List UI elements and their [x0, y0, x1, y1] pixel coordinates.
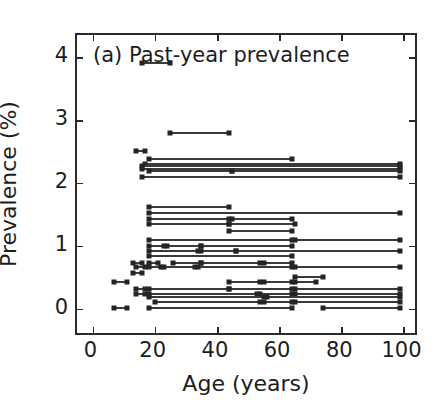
range-segment: [149, 212, 401, 214]
range-segment: [149, 239, 292, 241]
data-point-marker: [171, 261, 176, 266]
data-point-marker: [130, 271, 135, 276]
data-point-marker: [292, 265, 297, 270]
range-segment: [264, 301, 292, 303]
range-segment: [295, 239, 401, 241]
y-tick-label: 0: [55, 296, 68, 317]
range-segment: [232, 218, 291, 220]
data-point-marker: [146, 211, 151, 216]
data-point-marker: [227, 221, 232, 226]
range-segment: [149, 250, 199, 252]
x-tick-label: 0: [84, 340, 97, 361]
data-point-marker: [199, 248, 204, 253]
data-point-marker: [146, 238, 151, 243]
data-point-marker: [140, 167, 145, 172]
range-segment: [149, 296, 264, 298]
data-point-marker: [398, 306, 403, 311]
data-point-marker: [398, 265, 403, 270]
range-segment: [295, 293, 401, 295]
range-segment: [149, 158, 292, 160]
data-point-marker: [112, 279, 117, 284]
y-axis-title: Prevalence (%): [0, 101, 21, 267]
range-segment: [323, 307, 401, 309]
data-point-marker: [261, 261, 266, 266]
data-point-marker: [320, 275, 325, 280]
range-segment: [264, 281, 292, 283]
data-point-marker: [124, 279, 129, 284]
data-point-marker: [146, 221, 151, 226]
x-tick-label: 100: [381, 340, 421, 361]
data-point-marker: [292, 279, 297, 284]
y-tick-label: 2: [55, 170, 68, 191]
data-point-marker: [140, 271, 145, 276]
data-point-marker: [168, 61, 173, 66]
range-segment: [149, 255, 292, 257]
data-point-marker: [289, 228, 294, 233]
range-segment: [201, 250, 235, 252]
data-point-marker: [134, 149, 139, 154]
data-point-marker: [227, 131, 232, 136]
data-point-marker: [146, 204, 151, 209]
data-point-marker: [292, 221, 297, 226]
range-segment: [170, 132, 229, 134]
range-segment: [229, 288, 291, 290]
data-point-marker: [314, 279, 319, 284]
data-point-marker: [264, 294, 269, 299]
data-point-marker: [227, 228, 232, 233]
data-point-marker: [289, 243, 294, 248]
range-segment: [232, 170, 400, 172]
data-point-marker: [398, 248, 403, 253]
plot-area: (a) Past-year prevalence: [75, 33, 417, 335]
data-point-marker: [196, 265, 201, 270]
range-segment: [229, 230, 291, 232]
range-segment: [149, 206, 230, 208]
range-segment: [142, 62, 170, 64]
data-point-marker: [398, 300, 403, 305]
data-point-marker: [134, 265, 139, 270]
data-point-marker: [143, 149, 148, 154]
range-segment: [155, 301, 261, 303]
range-segment: [264, 262, 292, 264]
range-segment: [295, 266, 401, 268]
y-tick-label: 4: [55, 45, 68, 66]
data-series-layer: [77, 35, 415, 333]
range-segment: [149, 223, 230, 225]
data-point-marker: [398, 174, 403, 179]
range-segment: [236, 250, 401, 252]
data-point-marker: [233, 248, 238, 253]
range-segment: [295, 276, 323, 278]
range-segment: [164, 266, 195, 268]
range-segment: [201, 262, 260, 264]
data-point-marker: [134, 291, 139, 296]
data-point-marker: [124, 306, 129, 311]
y-tick-label: 1: [55, 233, 68, 254]
x-tick-label: 20: [139, 340, 166, 361]
data-point-marker: [227, 287, 232, 292]
range-segment: [201, 245, 291, 247]
data-point-marker: [398, 238, 403, 243]
data-point-marker: [292, 300, 297, 305]
data-point-marker: [112, 306, 117, 311]
x-tick-label: 60: [264, 340, 291, 361]
data-point-marker: [261, 300, 266, 305]
data-point-marker: [261, 279, 266, 284]
range-segment: [149, 293, 258, 295]
range-segment: [149, 170, 233, 172]
data-point-marker: [292, 238, 297, 243]
x-tick-label: 40: [202, 340, 229, 361]
data-point-marker: [152, 300, 157, 305]
range-segment: [149, 307, 292, 309]
data-point-marker: [168, 131, 173, 136]
data-point-marker: [146, 265, 151, 270]
data-point-marker: [398, 211, 403, 216]
range-segment: [149, 288, 230, 290]
data-point-marker: [289, 306, 294, 311]
data-point-marker: [165, 243, 170, 248]
data-point-marker: [227, 204, 232, 209]
data-point-marker: [162, 265, 167, 270]
data-point-marker: [289, 253, 294, 258]
data-point-marker: [146, 253, 151, 258]
x-tick-label: 80: [326, 340, 353, 361]
range-segment: [267, 296, 401, 298]
data-point-marker: [146, 306, 151, 311]
